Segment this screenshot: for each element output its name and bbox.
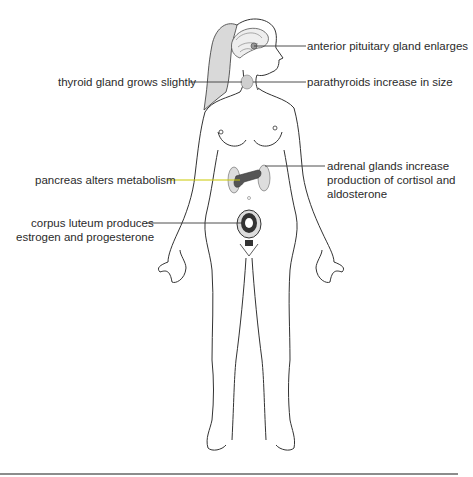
label-adrenal-line1: adrenal glands increase xyxy=(327,159,449,173)
inner-leg-left xyxy=(232,258,246,440)
breast-right xyxy=(254,132,282,146)
label-corpus-line2: estrogen and progesterone xyxy=(16,230,154,244)
label-corpus-line1: corpus luteum produces xyxy=(31,216,154,230)
label-thyroid: thyroid gland grows slightly xyxy=(58,75,196,89)
kidney-right xyxy=(258,165,270,191)
waist-left xyxy=(205,150,218,360)
inner-leg-right xyxy=(252,258,266,440)
hand-left xyxy=(158,250,186,282)
outer-leg-left xyxy=(207,360,226,450)
label-pituitary: anterior pituitary gland enlarges xyxy=(307,39,468,53)
label-parathyroids: parathyroids increase in size xyxy=(307,75,453,89)
breast-left xyxy=(218,132,246,146)
hair-shape xyxy=(204,24,237,110)
label-adrenal-line2: production of cortisol and xyxy=(327,173,456,187)
hand-right xyxy=(316,250,344,282)
label-pancreas: pancreas alters metabolism xyxy=(35,173,176,187)
outer-leg-right xyxy=(276,360,295,450)
thyroid-gland xyxy=(241,75,253,89)
label-adrenal-line3: aldosterone xyxy=(327,187,387,201)
waist-right xyxy=(284,150,297,360)
endocrine-pregnancy-diagram: anterior pituitary gland enlarges thyroi… xyxy=(0,0,473,477)
